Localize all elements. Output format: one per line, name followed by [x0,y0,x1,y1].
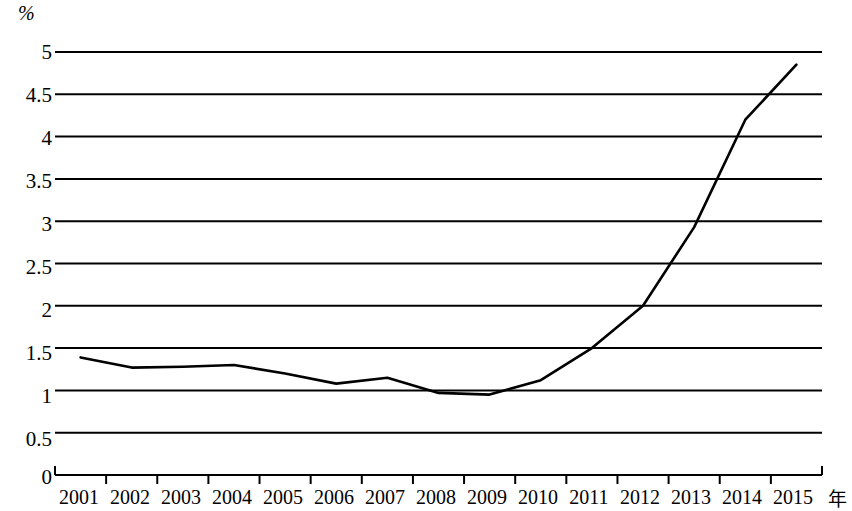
plot-area [0,0,852,511]
data-series-line [81,65,797,395]
line-chart: % 年 5 4.5 4 3.5 3 2.5 2 1.5 1 0.5 0 2001… [0,0,852,511]
gridlines [55,52,822,433]
